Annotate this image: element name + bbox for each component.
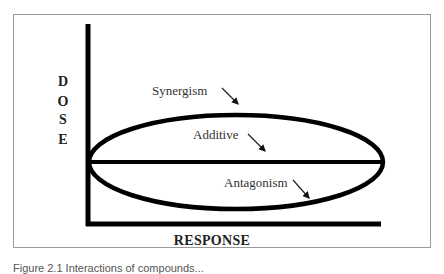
additive-label: Additive [193,127,239,143]
y-axis-label-letter: O [56,95,70,109]
x-axis-label: RESPONSE [160,233,264,249]
antagonism-arrow [293,180,309,198]
y-axis-label-letter: D [56,75,70,89]
additive-arrow [248,134,265,151]
synergism-label: Synergism [152,83,207,99]
y-axis-label-letter: E [56,133,70,147]
antagonism-label: Antagonism [224,175,288,191]
y-axis-label-letter: S [56,113,70,127]
figure-caption: Figure 2.1 Interactions of compounds... [13,262,433,274]
synergism-arrow [222,88,238,104]
